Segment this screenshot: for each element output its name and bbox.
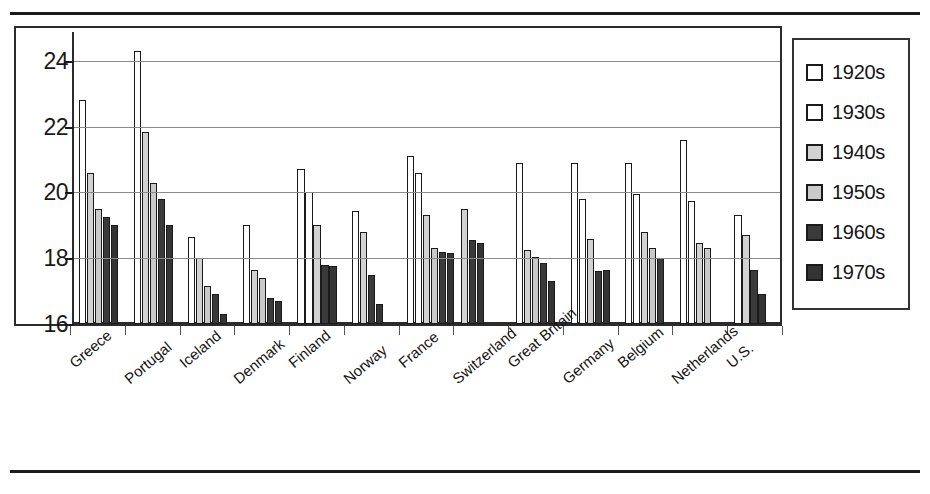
bar bbox=[603, 270, 610, 324]
y-tick-mark bbox=[65, 127, 74, 129]
bar bbox=[734, 215, 741, 324]
bar bbox=[267, 298, 274, 324]
bar bbox=[641, 232, 648, 324]
x-category-label: Belgium bbox=[614, 323, 666, 371]
bar bbox=[524, 250, 531, 324]
legend-item[interactable]: 1960s bbox=[806, 212, 908, 252]
bar bbox=[275, 301, 282, 324]
y-tick-mark bbox=[65, 192, 74, 194]
bar bbox=[439, 252, 446, 324]
x-category-label: Portugal bbox=[121, 338, 175, 387]
bar bbox=[431, 248, 438, 324]
bar bbox=[95, 209, 102, 324]
bar bbox=[750, 270, 757, 324]
bar-group bbox=[673, 28, 728, 324]
legend-swatch-icon bbox=[806, 224, 823, 241]
legend-swatch-icon bbox=[806, 144, 823, 161]
bar bbox=[704, 248, 711, 324]
bar-group bbox=[345, 28, 400, 324]
legend-swatch-icon bbox=[806, 264, 823, 281]
bar bbox=[204, 286, 211, 324]
bar bbox=[415, 173, 422, 324]
x-category-label: Finland bbox=[285, 326, 334, 371]
bar bbox=[540, 263, 547, 324]
bar bbox=[657, 258, 664, 324]
bar bbox=[368, 275, 375, 324]
bar bbox=[79, 100, 86, 324]
legend-item[interactable]: 1930s bbox=[806, 92, 908, 132]
legend-swatch-icon bbox=[806, 104, 823, 121]
bar bbox=[111, 225, 118, 324]
bar bbox=[680, 140, 687, 324]
bar-group bbox=[618, 28, 673, 324]
bottom-divider-rule bbox=[10, 470, 920, 473]
bar bbox=[447, 253, 454, 324]
bar bbox=[688, 201, 695, 324]
legend-label: 1970s bbox=[832, 261, 885, 284]
bar bbox=[150, 183, 157, 324]
bar bbox=[103, 217, 110, 324]
bar bbox=[352, 211, 359, 324]
bar bbox=[360, 232, 367, 324]
legend: 1920s1930s1940s1950s1960s1970s bbox=[792, 38, 910, 310]
legend-label: 1940s bbox=[832, 141, 885, 164]
bar bbox=[461, 209, 468, 324]
bar bbox=[742, 235, 749, 324]
bar bbox=[313, 225, 320, 324]
x-category-label: Denmark bbox=[230, 335, 288, 387]
bars-layer bbox=[72, 28, 780, 324]
axis-area: 1618202224 bbox=[16, 28, 780, 324]
bar bbox=[87, 173, 94, 324]
bar bbox=[532, 257, 539, 324]
bar bbox=[134, 51, 141, 324]
bar-group bbox=[454, 28, 509, 324]
gridline bbox=[72, 192, 780, 193]
bar bbox=[407, 156, 414, 324]
bar bbox=[477, 243, 484, 324]
bar bbox=[625, 163, 632, 324]
bar bbox=[595, 271, 602, 324]
legend-item[interactable]: 1970s bbox=[806, 252, 908, 292]
bar bbox=[587, 239, 594, 325]
bar bbox=[579, 199, 586, 324]
bar-group bbox=[727, 28, 782, 324]
bar bbox=[251, 270, 258, 324]
bar-group bbox=[509, 28, 564, 324]
bar-group bbox=[564, 28, 619, 324]
bar bbox=[516, 163, 523, 324]
bar bbox=[220, 314, 227, 324]
x-category-label: Norway bbox=[340, 341, 390, 387]
bar bbox=[696, 243, 703, 324]
legend-label: 1950s bbox=[832, 181, 885, 204]
bar-group bbox=[400, 28, 455, 324]
bar bbox=[423, 215, 430, 324]
bar-group bbox=[181, 28, 236, 324]
bar-group bbox=[290, 28, 345, 324]
bar bbox=[376, 304, 383, 324]
x-category-label: Germany bbox=[559, 334, 617, 387]
bar bbox=[571, 163, 578, 324]
bar bbox=[321, 265, 328, 324]
top-divider-rule bbox=[10, 12, 920, 15]
legend-item[interactable]: 1950s bbox=[806, 172, 908, 212]
bar bbox=[158, 199, 165, 324]
bar bbox=[649, 248, 656, 324]
legend-item[interactable]: 1920s bbox=[806, 52, 908, 92]
legend-label: 1920s bbox=[832, 61, 885, 84]
bar bbox=[196, 258, 203, 324]
legend-label: 1930s bbox=[832, 101, 885, 124]
legend-swatch-icon bbox=[806, 184, 823, 201]
x-category-label: Greece bbox=[66, 326, 115, 371]
gridline bbox=[72, 258, 780, 259]
bar bbox=[188, 237, 195, 324]
bar bbox=[329, 266, 336, 324]
bar bbox=[212, 294, 219, 324]
chart-page: 1618202224 GreecePortugalIcelandDenmarkF… bbox=[0, 0, 930, 494]
bar bbox=[259, 278, 266, 324]
legend-swatch-icon bbox=[806, 64, 823, 81]
plot-frame: 1618202224 bbox=[14, 26, 782, 326]
bar bbox=[758, 294, 765, 324]
legend-item[interactable]: 1940s bbox=[806, 132, 908, 172]
x-category-label: France bbox=[395, 328, 442, 371]
bar-group bbox=[127, 28, 182, 324]
